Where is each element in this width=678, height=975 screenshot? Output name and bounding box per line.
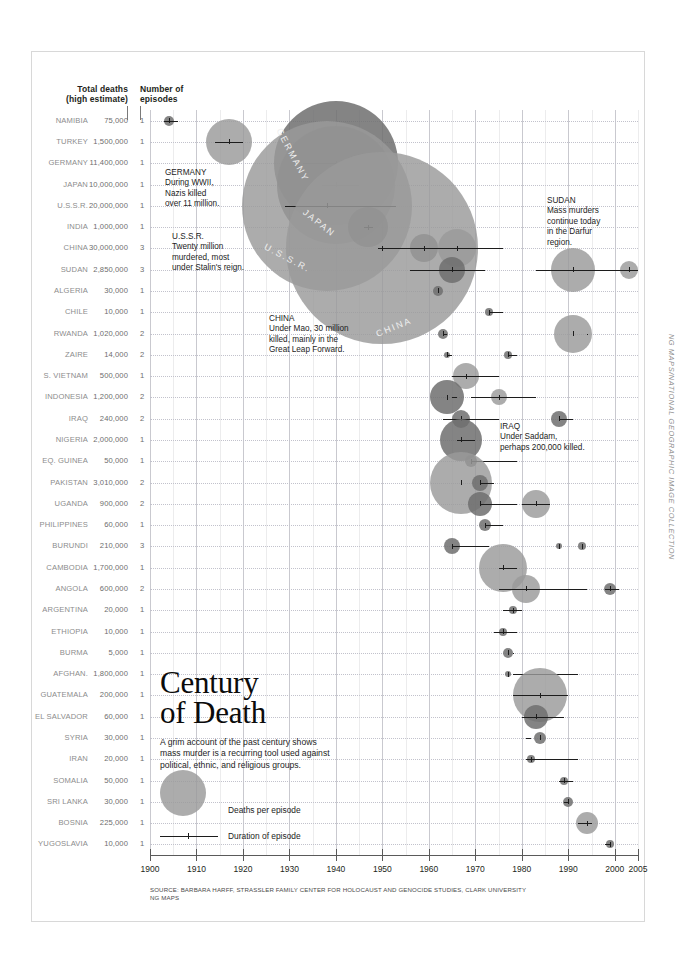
episode-center-tick <box>452 544 453 549</box>
episode-duration-bar <box>452 376 498 377</box>
row-episode-count: 1 <box>140 775 150 787</box>
episode-center-tick <box>508 650 509 655</box>
row-total-deaths: 1,800,000 <box>88 668 128 680</box>
row-episode-count: 1 <box>140 753 150 765</box>
row-total-deaths: 240,000 <box>88 413 128 425</box>
episode-center-tick <box>536 501 537 506</box>
table-row: JAPAN10,000,0001 <box>0 179 150 191</box>
row-episode-count: 3 <box>140 242 150 254</box>
row-country: U.S.S.R. <box>10 200 88 212</box>
table-row: GUATEMALA200,0001 <box>0 689 150 701</box>
row-country: SRI LANKA <box>10 796 88 808</box>
row-episode-count: 1 <box>140 370 150 382</box>
callout-title: U.S.S.R. <box>172 232 244 242</box>
row-episode-count: 1 <box>140 115 150 127</box>
row-episode-count: 2 <box>140 583 150 595</box>
episode-center-tick <box>503 565 504 570</box>
grid-line-row <box>150 461 638 462</box>
table-row: PAKISTAN3,010,0002 <box>0 477 150 489</box>
episode-center-tick <box>382 246 383 251</box>
title-line2: of Death <box>160 695 266 730</box>
row-country: ZAIRE <box>10 349 88 361</box>
table-row: BOSNIA225,0001 <box>0 817 150 829</box>
x-axis-tick <box>150 849 151 861</box>
episode-duration-bar <box>489 312 503 313</box>
callout-body-line: murdered, most <box>172 253 244 263</box>
row-total-deaths: 50,000 <box>88 775 128 787</box>
x-axis-tick-label: 1970 <box>466 864 485 874</box>
episode-duration-bar <box>559 419 573 420</box>
table-row: BURMA5,0001 <box>0 647 150 659</box>
row-episode-count: 1 <box>140 689 150 701</box>
episode-duration-bar <box>508 355 517 356</box>
episode-center-tick <box>461 437 462 442</box>
x-axis-tick <box>638 849 639 861</box>
episode-duration-bar <box>480 483 494 484</box>
table-row: UGANDA900,0002 <box>0 498 150 510</box>
row-total-deaths: 200,000 <box>88 689 128 701</box>
table-row: ARGENTINA20,0001 <box>0 604 150 616</box>
row-episode-count: 1 <box>140 647 150 659</box>
episode-center-tick <box>443 331 444 336</box>
row-total-deaths: 10,000 <box>88 838 128 850</box>
legend-bubble-label: Deaths per episode <box>228 805 301 815</box>
row-country: AFGHAN. <box>10 668 88 680</box>
episode-duration-bar <box>578 823 592 824</box>
row-episode-count: 1 <box>140 136 150 148</box>
episode-center-tick <box>169 118 170 123</box>
episode-duration-bar <box>513 653 514 654</box>
row-episode-count: 2 <box>140 413 150 425</box>
callout-body-line: in the Darfur <box>547 227 600 237</box>
header-episodes-line1: Number of <box>140 84 183 94</box>
table-row: YUGOSLAVIA10,0001 <box>0 838 150 850</box>
row-episode-count: 1 <box>140 519 150 531</box>
table-row: SUDAN2,850,0003 <box>0 264 150 276</box>
episode-duration-bar <box>526 738 531 739</box>
episode-center-tick <box>489 310 490 315</box>
row-country: EQ. GUINEA <box>10 455 88 467</box>
row-episode-count: 1 <box>140 668 150 680</box>
callout-china: CHINAUnder Mao, 30 millionkilled, mainly… <box>269 314 349 356</box>
row-country: INDIA <box>10 221 88 233</box>
row-country: SUDAN <box>10 264 88 276</box>
episode-center-tick <box>229 139 230 144</box>
row-country: ARGENTINA <box>10 604 88 616</box>
episode-duration-bar <box>410 270 484 271</box>
x-axis-tick-label: 1980 <box>512 864 531 874</box>
callout-body-line: under Stalin's reign. <box>172 263 244 273</box>
x-axis-tick-label: 1930 <box>280 864 299 874</box>
grid-line-row <box>150 504 638 505</box>
row-total-deaths: 30,000 <box>88 732 128 744</box>
row-total-deaths: 20,000 <box>88 753 128 765</box>
callout-sudan: SUDANMass murderscontinue todayin the Da… <box>547 196 600 248</box>
row-episode-count: 2 <box>140 328 150 340</box>
table-row: BURUNDI210,0003 <box>0 540 150 552</box>
episode-center-tick <box>447 395 448 400</box>
table-row: INDIA1,000,0001 <box>0 221 150 233</box>
table-row: U.S.S.R.20,000,0001 <box>0 200 150 212</box>
row-country: BOSNIA <box>10 817 88 829</box>
row-episode-count: 1 <box>140 796 150 808</box>
episode-duration-bar <box>629 270 638 271</box>
row-country: NIGERIA <box>10 434 88 446</box>
table-row: IRAN20,0001 <box>0 753 150 765</box>
row-country: CHILE <box>10 306 88 318</box>
table-row: ANGOLA600,0002 <box>0 583 150 595</box>
row-country: SOMALIA <box>10 775 88 787</box>
table-row: SRI LANKA30,0001 <box>0 796 150 808</box>
x-axis-tick <box>522 849 523 861</box>
column-header-number-of-episodes: Number of episodes <box>140 84 200 104</box>
source-credit: SOURCE: BARBARA HARFF, STRASSLER FAMILY … <box>150 886 526 903</box>
row-total-deaths: 1,200,000 <box>88 391 128 403</box>
row-total-deaths: 3,010,000 <box>88 477 128 489</box>
x-axis-tick-label: 1950 <box>373 864 392 874</box>
callout-body-line: perhaps 200,000 killed. <box>500 443 585 453</box>
source-line1: SOURCE: BARBARA HARFF, STRASSLER FAMILY … <box>150 886 526 894</box>
grid-line-row <box>150 653 638 654</box>
row-country: ALGERIA <box>10 285 88 297</box>
row-country: INDONESIA <box>10 391 88 403</box>
table-row: SOMALIA50,0001 <box>0 775 150 787</box>
episode-duration-bar <box>522 717 564 718</box>
row-episode-count: 2 <box>140 498 150 510</box>
legend-duration-line <box>160 836 218 837</box>
